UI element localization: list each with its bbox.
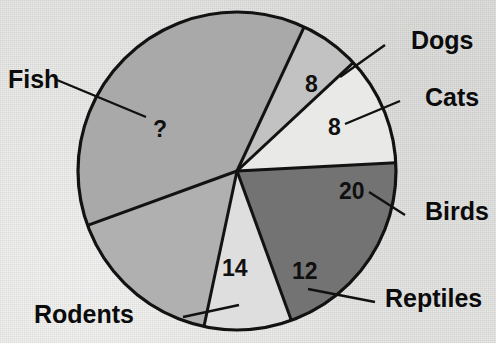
category-label-birds: Birds (425, 197, 489, 225)
slice-value-rodents: 14 (222, 255, 248, 281)
pie-chart-canvas: 88201214? DogsCatsBirdsReptilesRodentsFi… (0, 0, 496, 343)
category-label-fish: Fish (8, 65, 59, 93)
category-label-cats: Cats (425, 83, 479, 111)
slice-value-dogs: 8 (305, 71, 318, 97)
category-label-rodents: Rodents (34, 300, 134, 328)
pie-chart-figure: 88201214? DogsCatsBirdsReptilesRodentsFi… (0, 0, 496, 343)
category-label-dogs: Dogs (411, 26, 474, 54)
slice-value-cats: 8 (328, 114, 341, 140)
slice-value-fish: ? (153, 116, 167, 142)
slice-value-reptiles: 12 (292, 258, 318, 284)
slice-value-birds: 20 (339, 178, 365, 204)
category-label-reptiles: Reptiles (385, 284, 482, 312)
